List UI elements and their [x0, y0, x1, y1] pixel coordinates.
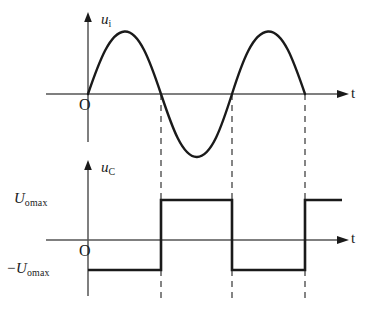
- positive-level-symbol: U: [14, 190, 25, 206]
- output-square-waveform: [88, 200, 342, 270]
- negative-level-subscript: omax: [27, 267, 50, 278]
- bottom-plot-x-axis-label: t: [351, 231, 355, 246]
- waveform-svg: [0, 0, 377, 321]
- negative-level-symbol: −U: [6, 260, 27, 276]
- bottom-plot-origin-label: O: [79, 243, 91, 259]
- bottom-plot-y-axis-arrow-icon: [84, 160, 92, 170]
- top-plot-y-axis-label-symbol: u: [101, 11, 109, 27]
- bottom-plot-positive-level-label: Uomax: [14, 191, 48, 206]
- bottom-plot-negative-level-label: −Uomax: [6, 261, 50, 276]
- bottom-plot-y-axis-label-symbol: u: [101, 159, 109, 175]
- top-plot: [46, 12, 349, 157]
- top-plot-y-axis-arrow-icon: [84, 12, 92, 22]
- bottom-plot-x-axis-arrow-icon: [337, 236, 349, 244]
- waveform-figure: ui t O uC t O Uomax −Uomax: [0, 0, 377, 321]
- positive-level-subscript: omax: [25, 197, 48, 208]
- bottom-plot: [46, 160, 349, 296]
- bottom-plot-y-axis-label: uC: [101, 160, 115, 175]
- bottom-plot-y-axis-label-subscript: C: [109, 166, 116, 177]
- top-plot-x-axis-label: t: [351, 86, 355, 101]
- top-plot-y-axis-label: ui: [101, 12, 111, 27]
- top-plot-origin-label: O: [79, 97, 91, 113]
- top-plot-x-axis-arrow-icon: [337, 90, 349, 98]
